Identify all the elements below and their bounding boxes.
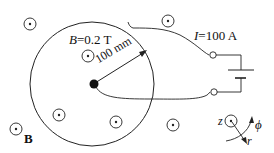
terminal-lower bbox=[211, 89, 217, 95]
field-marker bbox=[167, 119, 179, 131]
field-marker bbox=[10, 123, 22, 135]
field-marker bbox=[24, 18, 36, 30]
center-contact bbox=[90, 80, 99, 89]
axis-phi-label: ϕ bbox=[255, 118, 262, 131]
axis-z-label: z bbox=[218, 115, 223, 127]
field-marker bbox=[162, 15, 174, 27]
diagram-canvas bbox=[0, 0, 274, 153]
axis-r-label: r bbox=[247, 135, 252, 147]
current-label: I=100 A bbox=[194, 29, 237, 42]
terminal-upper bbox=[210, 52, 216, 58]
field-marker bbox=[82, 50, 94, 62]
field-marker bbox=[53, 109, 65, 121]
battery-icon bbox=[216, 55, 254, 92]
field-vector-label: B bbox=[24, 132, 33, 145]
field-marker bbox=[110, 116, 122, 128]
homopolar-disk-diagram: B=0.2 T I=100 A 100 mm B z ϕ r bbox=[0, 0, 274, 153]
field-strength-label: B=0.2 T bbox=[69, 33, 112, 46]
